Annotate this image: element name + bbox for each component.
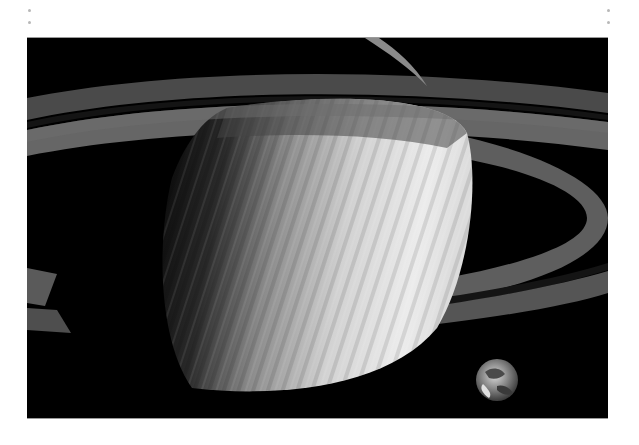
margin-dot bbox=[607, 9, 610, 12]
margin-dot bbox=[607, 21, 610, 24]
margin-dot bbox=[28, 21, 31, 24]
earth bbox=[476, 359, 518, 401]
ring-left-fragment bbox=[27, 268, 71, 333]
saturn-earth-illustration bbox=[27, 38, 608, 419]
saturn-earth-photo: Saturn with its rings and Earth shown to… bbox=[27, 37, 608, 419]
margin-dot bbox=[28, 9, 31, 12]
